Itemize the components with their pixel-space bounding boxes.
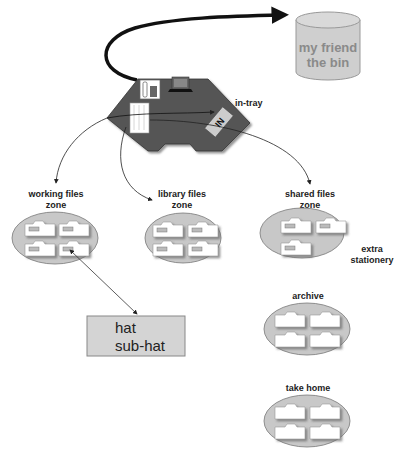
diagram-canvas: my friend the bin IN in-tray working fi xyxy=(0,0,400,452)
bin-label-line2: the bin xyxy=(307,55,350,70)
sub-hat-label: sub-hat xyxy=(115,337,166,354)
bin-cylinder: my friend the bin xyxy=(296,12,360,80)
hat-box: hat sub-hat xyxy=(87,316,185,356)
arrow-to-working xyxy=(56,118,107,183)
laptop-icon xyxy=(168,77,193,92)
bin-label-line1: my friend xyxy=(299,40,358,55)
zone-archive: archive xyxy=(264,291,350,355)
zone-working: working files zone xyxy=(12,189,98,264)
zone-take-home: take home xyxy=(264,383,350,447)
phone-icon xyxy=(140,80,160,99)
zone-working-title-2: zone xyxy=(46,200,67,210)
zone-library-title-1: library files xyxy=(158,189,206,199)
hat-label: hat xyxy=(115,319,137,336)
zone-shared: shared files zone extra stationery xyxy=(260,189,394,265)
arrow-to-bin xyxy=(106,15,282,80)
zone-working-title-1: working files xyxy=(27,189,83,199)
zone-take-home-title: take home xyxy=(286,383,331,393)
extra-stationery-label-1: extra xyxy=(361,244,384,254)
paper-stack-icon xyxy=(130,103,149,133)
extra-stationery-label-2: stationery xyxy=(350,255,393,265)
zone-shared-title-1: shared files xyxy=(285,189,335,199)
zone-library: library files zone xyxy=(145,189,221,263)
arrow-folder-hat xyxy=(70,250,137,314)
zone-library-title-2: zone xyxy=(172,200,193,210)
in-tray-label: in-tray xyxy=(235,98,263,108)
zone-archive-title: archive xyxy=(292,291,324,301)
